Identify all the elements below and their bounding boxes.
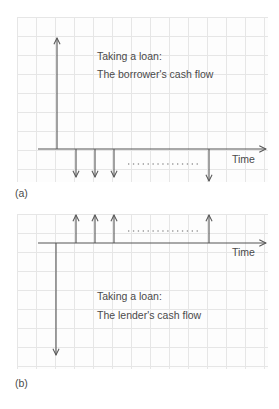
cash-flow-diagram-borrower (0, 0, 279, 200)
panel-label-a: (a) (15, 187, 28, 199)
title-line-1: Taking a loan: (97, 290, 162, 302)
cash-flow-diagram-lender (0, 200, 279, 409)
title-line-2: The borrower's cash flow (97, 68, 213, 80)
title-line-1: Taking a loan: (97, 50, 162, 62)
time-axis-label: Time (232, 153, 255, 165)
panel-label-b: (b) (15, 377, 28, 389)
title-line-2: The lender's cash flow (97, 309, 201, 321)
time-axis-label: Time (232, 246, 255, 258)
panel-b-lender: Time Taking a loan: The lender's cash fl… (0, 200, 279, 409)
panel-a-borrower: Taking a loan: The borrower's cash flow … (0, 0, 279, 200)
